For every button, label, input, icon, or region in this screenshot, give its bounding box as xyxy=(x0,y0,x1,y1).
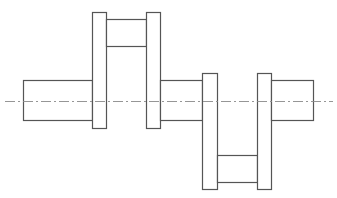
parts-layer xyxy=(24,13,314,190)
crankshaft-drawing xyxy=(0,0,337,198)
web-3 xyxy=(203,74,218,190)
left-shaft xyxy=(24,81,93,121)
lower-crankpin xyxy=(218,156,258,183)
web-2 xyxy=(147,13,161,129)
right-shaft xyxy=(272,81,314,121)
web-1 xyxy=(93,13,107,129)
crankshaft-diagram xyxy=(0,0,337,198)
web-4 xyxy=(258,74,272,190)
upper-crankpin xyxy=(107,20,147,47)
middle-shaft xyxy=(161,81,203,121)
